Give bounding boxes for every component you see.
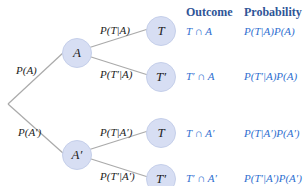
node-T1prime-label: T′ [156,69,166,85]
outcome-cell: T ∩ A [186,25,212,37]
node-T2: T [146,118,176,148]
node-A-label: A [73,45,81,61]
branch-label-PA: P(A) [16,64,37,76]
probability-cell: P(T|A′)P(A′) [244,127,299,139]
outcome-cell: T ∩ A′ [186,127,214,139]
node-T1prime: T′ [146,62,176,92]
branch-label-T-given-Ap: P(T|A′) [100,126,132,138]
probability-cell: P(T′|A)P(A) [244,70,297,82]
header-outcome: Outcome [186,5,233,20]
node-Aprime-label: A′ [72,147,83,163]
branch-label-Tp-given-A: P(T′|A) [100,68,132,80]
branch-label-T-given-A: P(T|A) [100,24,130,36]
node-T1-label: T [157,23,164,39]
node-Aprime: A′ [62,140,92,170]
outcome-cell: T′ ∩ A [186,70,215,82]
node-T2prime: T′ [146,164,176,186]
outcome-cell: T′ ∩ A′ [186,172,217,184]
probability-cell: P(T|A)P(A) [244,25,295,37]
node-T1: T [146,16,176,46]
branch-label-Tp-given-Ap: P(T′|A′) [100,170,135,182]
branch-label-PAprime: P(A′) [18,126,41,138]
node-A: A [62,38,92,68]
edge-root-A [8,52,64,104]
probability-cell: P(T′|A′)P(A′) [244,172,302,184]
header-probability: Probability [244,5,302,20]
node-T2prime-label: T′ [156,171,166,186]
node-T2-label: T [157,125,164,141]
